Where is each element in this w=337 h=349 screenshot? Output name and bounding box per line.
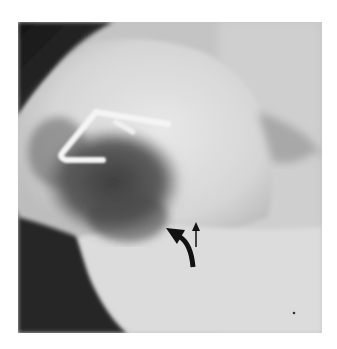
radiograph-image [18,22,322,333]
xray-svg [18,22,322,333]
bone-lower [78,226,322,333]
artifact-dot [293,312,296,315]
